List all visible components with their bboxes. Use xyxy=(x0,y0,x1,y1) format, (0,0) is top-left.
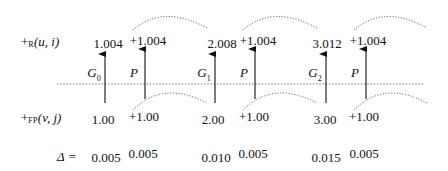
row-label-delta: Δ = xyxy=(57,150,76,163)
row-label-top-args: (u, i) xyxy=(34,34,59,49)
bottom-value: +1.00 xyxy=(349,110,379,123)
diagram-lines xyxy=(0,0,448,171)
bottom-arc-3 xyxy=(354,93,427,110)
delta-value: 0.010 xyxy=(201,151,230,164)
accumulation-diagram: +R(u, i) +FP(v, j) Δ = G0 P G1 P G2 P 1.… xyxy=(0,0,448,171)
top-arc-2 xyxy=(243,16,317,30)
arrow-label-g2: G2 xyxy=(308,66,321,83)
arrow-label-p2: P xyxy=(240,66,248,79)
delta-value: 0.015 xyxy=(311,151,340,164)
arrow-label-p1: P xyxy=(130,66,138,79)
bottom-value: 3.00 xyxy=(314,113,337,126)
top-value: 2.008 xyxy=(207,37,236,50)
top-value: 1.004 xyxy=(93,37,122,50)
top-value: +1.004 xyxy=(350,34,387,47)
bottom-value: +1.00 xyxy=(129,110,159,123)
bottom-value: 2.00 xyxy=(202,113,225,126)
delta-value: 0.005 xyxy=(238,147,267,160)
arrow-label-g1: G1 xyxy=(197,66,210,83)
delta-value: 0.005 xyxy=(128,147,157,160)
row-label-bottom-sub: FP xyxy=(28,116,38,125)
top-arc-1 xyxy=(133,16,207,30)
top-value: 3.012 xyxy=(312,37,341,50)
row-label-top: +R(u, i) xyxy=(21,35,59,48)
bottom-value: 1.00 xyxy=(92,113,115,126)
delta-value: 0.005 xyxy=(91,151,120,164)
row-label-bottom: +FP(v, j) xyxy=(21,111,61,124)
top-arc-3 xyxy=(354,16,427,30)
bottom-value: +1.00 xyxy=(239,110,269,123)
bottom-arc-1 xyxy=(133,93,207,110)
arrow-label-p3: P xyxy=(351,66,359,79)
delta-label: Δ = xyxy=(57,149,76,164)
delta-value: 0.005 xyxy=(349,147,378,160)
bottom-arc-2 xyxy=(243,93,317,110)
top-value: +1.004 xyxy=(240,34,277,47)
row-label-top-sub: R xyxy=(28,40,34,49)
top-value: +1.004 xyxy=(130,34,167,47)
row-label-bottom-args: (v, j) xyxy=(38,110,62,125)
arrow-label-g0: G0 xyxy=(87,66,100,83)
